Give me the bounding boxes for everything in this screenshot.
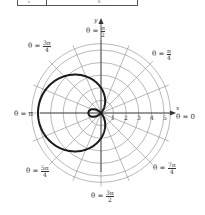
radial-tick-1: 1 (111, 115, 115, 121)
label-theta-7pi-4: θ = 7π4 (153, 162, 176, 175)
radial-tick-3: 3 (137, 115, 141, 121)
radial-tick-4: 4 (150, 115, 154, 121)
label-theta-0: θ = 0 (176, 114, 195, 121)
radial-tick-5: 5 (163, 115, 167, 121)
radial-tick-2: 2 (124, 115, 128, 121)
label-theta-3pi-2: θ = 3π2 (91, 190, 114, 203)
y-axis-label: y (94, 16, 97, 23)
label-theta-pi: θ = π (14, 111, 33, 118)
label-theta-5pi-4: θ = 5π4 (26, 165, 49, 178)
label-theta-pi-2: θ = π2 (86, 25, 105, 38)
label-theta-3pi-4: θ = 3π4 (28, 40, 51, 53)
label-theta-pi-4: θ = π4 (152, 48, 171, 61)
x-axis-label: x (176, 104, 179, 111)
